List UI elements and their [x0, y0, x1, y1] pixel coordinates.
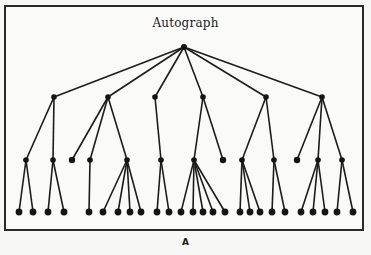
leaf-node — [127, 209, 134, 216]
leaf-node — [322, 209, 329, 216]
tree-edge — [157, 160, 161, 212]
tree-edge — [240, 160, 242, 212]
tree-edge — [103, 160, 127, 212]
tree-edge — [155, 47, 184, 97]
tree-edge — [274, 160, 285, 212]
leaf-node — [257, 209, 264, 216]
tree-edge — [108, 97, 127, 160]
tree-edge — [161, 160, 169, 212]
leaf-node — [282, 209, 289, 216]
level1-node — [200, 94, 206, 100]
level2-node — [239, 157, 245, 163]
tree-edge — [90, 97, 108, 160]
leaf-node — [237, 209, 244, 216]
tree-edge — [26, 160, 33, 212]
leaf-node — [138, 209, 145, 216]
tree-diagram — [0, 0, 371, 255]
leaf-node — [115, 209, 122, 216]
leaf-node — [166, 209, 173, 216]
tree-edge — [89, 160, 90, 212]
tree-edge — [318, 160, 325, 212]
level2-node — [271, 157, 277, 163]
leaf-node — [269, 209, 276, 216]
tree-edge — [194, 97, 203, 160]
leaf-node — [178, 209, 185, 216]
tree-edge — [53, 97, 54, 160]
tree-edge — [72, 97, 108, 160]
level1-node — [152, 94, 158, 100]
tree-edge — [26, 97, 54, 160]
level1-node — [105, 94, 111, 100]
tree-edge — [53, 160, 64, 212]
tree-edge — [48, 160, 53, 212]
leaf-node — [45, 209, 52, 216]
leaf-node — [310, 209, 317, 216]
level2-node — [315, 157, 321, 163]
level2-node — [87, 157, 93, 163]
level2-node — [124, 157, 130, 163]
level2-node — [220, 157, 226, 163]
tree-edge — [322, 97, 342, 160]
leaf-node — [30, 209, 37, 216]
leaf-node — [350, 209, 357, 216]
leaf-node — [16, 209, 23, 216]
leaf-node — [222, 209, 229, 216]
tree-edge — [242, 97, 266, 160]
level1-node — [319, 94, 325, 100]
level2-node — [339, 157, 345, 163]
figure-caption: A — [0, 237, 371, 247]
leaf-node — [247, 209, 254, 216]
root-node — [181, 44, 187, 50]
level2-node — [158, 157, 164, 163]
leaf-node — [154, 209, 161, 216]
tree-edge — [266, 97, 274, 160]
leaf-node — [190, 209, 197, 216]
level2-node — [50, 157, 56, 163]
leaf-node — [86, 209, 93, 216]
tree-edge — [193, 160, 194, 212]
leaf-node — [61, 209, 68, 216]
edges — [19, 47, 353, 212]
tree-edge — [242, 160, 260, 212]
tree-edge — [242, 160, 250, 212]
level1-node — [263, 94, 269, 100]
tree-edge — [272, 160, 274, 212]
level1-node — [51, 94, 57, 100]
tree-edge — [118, 160, 127, 212]
leaf-node — [210, 209, 217, 216]
leaf-node — [334, 209, 341, 216]
level2-node — [69, 157, 75, 163]
level2-node — [294, 157, 300, 163]
tree-edge — [19, 160, 26, 212]
leaf-node — [298, 209, 305, 216]
tree-edge — [184, 47, 203, 97]
leaf-node — [100, 209, 107, 216]
level2-node — [191, 157, 197, 163]
tree-edge — [342, 160, 353, 212]
tree-edge — [181, 160, 194, 212]
leaf-node — [200, 209, 207, 216]
tree-edge — [155, 97, 161, 160]
tree-edge — [203, 97, 223, 160]
level2-node — [23, 157, 29, 163]
tree-edge — [337, 160, 342, 212]
